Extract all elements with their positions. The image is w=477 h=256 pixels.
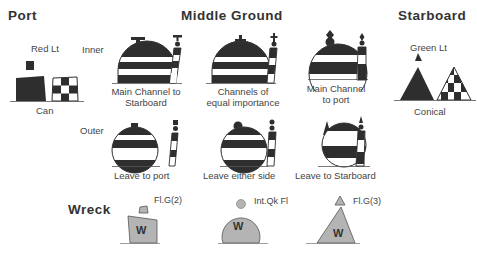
row-label-outer: Outer [80, 125, 104, 136]
caption-line: Channels of [204, 86, 282, 97]
caption-main-channel-to-starboard: Main Channel to Starboard [108, 86, 184, 108]
buoy-leave-either-side [215, 122, 275, 176]
port-can-buoy-checkered [52, 77, 78, 101]
spar-main-channel-to-port [357, 33, 366, 80]
caption-leave-either-side: Leave either side [203, 170, 275, 181]
wreck-light-3: Fl.G(3) [353, 196, 381, 206]
caption-line: Main Channel to [108, 86, 184, 97]
starboard-conical-buoy-checkered [437, 67, 471, 100]
heading-middle-ground: Middle Ground [181, 8, 283, 23]
buoy-leave-to-starboard [318, 120, 380, 170]
caption-main-channel-to-port: Main Channel to port [300, 83, 372, 105]
spar-leave-to-starboard [356, 116, 365, 166]
caption-line: to port [300, 94, 372, 105]
wreck-mark-3: W [333, 227, 343, 239]
starboard-shape-label: Conical [414, 106, 446, 117]
wreck-mark-2: W [233, 220, 243, 232]
port-can-buoy-solid [16, 61, 46, 101]
heading-wreck: Wreck [68, 202, 111, 217]
caption-leave-to-port: Leave to port [114, 170, 169, 181]
row-label-inner: Inner [82, 44, 104, 55]
port-light-label: Red Lt [31, 43, 59, 54]
caption-leave-to-starboard: Leave to Starboard [295, 170, 376, 181]
green-light-icon [415, 53, 422, 61]
caption-channels-equal-importance: Channels of equal importance [204, 86, 282, 108]
spar-leave-either-side [267, 120, 276, 167]
wreck-light-2: Int.Qk Fl [254, 196, 288, 206]
buoy-leave-to-port [110, 123, 170, 175]
port-shape-label: Can [36, 105, 53, 116]
wreck-light-1: Fl.G(2) [154, 195, 182, 205]
spar-leave-to-port [169, 120, 178, 166]
wreck-mark-1: W [136, 224, 146, 236]
caption-line: Starboard [108, 97, 184, 108]
caption-line: equal importance [204, 97, 282, 108]
heading-starboard: Starboard [398, 8, 466, 23]
buoyage-diagram [0, 0, 477, 256]
spar-channels-equal-importance [267, 33, 278, 83]
heading-port: Port [8, 8, 37, 23]
red-light-icon [26, 61, 34, 70]
starboard-light-label: Green Lt [410, 42, 447, 53]
starboard-conical-buoy-solid [400, 53, 434, 100]
caption-line: Main Channel [300, 83, 372, 94]
